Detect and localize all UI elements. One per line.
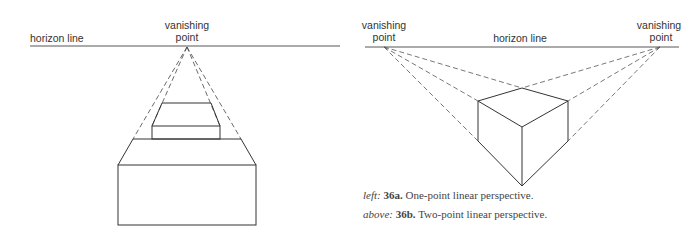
box-shapes-a — [118, 103, 256, 225]
caption-36a-text: One-point linear perspective. — [405, 189, 533, 201]
figure-two-point: vanishing point horizon line vanishing p… — [362, 19, 682, 186]
vanishing-point-label-a-line2: point — [176, 31, 199, 43]
caption-36a-prefix: left: — [363, 189, 381, 201]
vanishing-point-right-label-line2: point — [650, 31, 673, 43]
caption-36b-number: 36b. — [396, 208, 416, 220]
horizon-line-label-a: horizon line — [30, 32, 84, 44]
caption-36a: left: 36a. One-point linear perspective. — [363, 189, 533, 201]
cube-b — [478, 88, 568, 186]
horizon-line-label-b: horizon line — [493, 32, 547, 44]
caption-36b-text: Two-point linear perspective. — [418, 208, 547, 220]
caption-36a-number: 36a. — [383, 189, 402, 201]
convergence-lines-a — [133, 47, 241, 139]
vanishing-point-right-label-line1: vanishing — [637, 19, 682, 31]
vanishing-point-left-label-line1: vanishing — [362, 19, 407, 31]
figure-one-point: horizon line vanishing point — [30, 19, 340, 225]
vanishing-point-left-label-line2: point — [373, 31, 396, 43]
perspective-diagrams: horizon line vanishing point vanishing p… — [0, 0, 689, 239]
vanishing-point-label-a-line1: vanishing — [165, 19, 210, 31]
caption-36b: above: 36b. Two-point linear perspective… — [363, 208, 547, 220]
caption-36b-prefix: above: — [363, 208, 393, 220]
